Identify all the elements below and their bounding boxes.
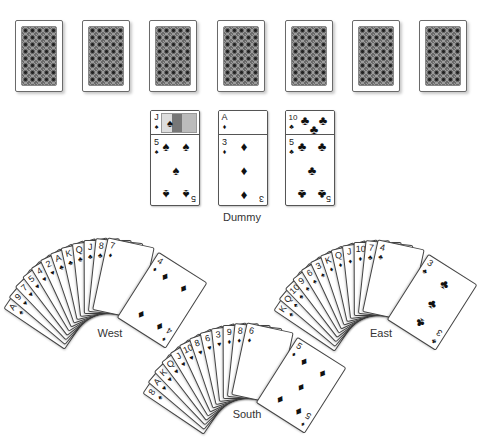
- diamond-pip: ♦: [238, 140, 251, 153]
- west-label: West: [98, 327, 123, 339]
- spade-icon: ♠: [152, 123, 161, 130]
- spade-pip: ♠: [180, 140, 193, 153]
- card-rank: 4: [377, 243, 388, 254]
- diamond-icon: ♦: [220, 123, 229, 130]
- card-rank: 3: [257, 194, 266, 203]
- card-rank: 3: [220, 138, 229, 147]
- card-back-pattern: [223, 26, 259, 86]
- spade-pip: ♠: [160, 140, 173, 153]
- card-rank: A: [220, 113, 229, 122]
- club-pip: ♣: [308, 123, 321, 136]
- dummy-card-top[interactable]: 10 ♣ ♣ ♣ ♣: [286, 111, 334, 135]
- card-rank: 10: [287, 113, 299, 122]
- card-back[interactable]: [82, 20, 130, 92]
- diamond-icon: ♦: [106, 251, 116, 260]
- card-back[interactable]: [149, 20, 197, 92]
- card-rank: 5: [324, 194, 333, 203]
- club-pip: ♣: [411, 314, 429, 332]
- diamond-icon: ♦: [220, 148, 229, 155]
- diamond-pip: ♦: [238, 164, 251, 177]
- club-pip: ♣: [436, 275, 454, 293]
- card-back-pattern: [291, 26, 327, 86]
- diamond-pip: ♦: [292, 378, 310, 396]
- card-back-pattern: [425, 26, 461, 86]
- card-back-pattern: [21, 26, 57, 86]
- card-back-pattern: [88, 26, 124, 86]
- card-rank: 7: [107, 241, 118, 252]
- club-pip: ♣: [423, 295, 441, 313]
- dummy-card-top[interactable]: J ♠ ♠: [151, 111, 199, 135]
- club-pip: ♣: [316, 140, 329, 153]
- dummy-label: Dummy: [223, 211, 261, 223]
- card-back[interactable]: [352, 20, 400, 92]
- dummy-column-clubs[interactable]: 10 ♣ ♣ ♣ ♣ 5 ♣ ♣ ♣ ♣ ♣ ♣ 5: [285, 110, 335, 206]
- card-rank: J: [152, 113, 161, 122]
- diamond-pip: ♦: [314, 364, 332, 382]
- card-back[interactable]: [15, 20, 63, 92]
- card-back-pattern: [155, 26, 191, 86]
- east-label: East: [370, 327, 392, 339]
- club-pip: ♣: [306, 164, 319, 177]
- club-pip: ♣: [296, 188, 309, 201]
- card-back-pattern: [358, 26, 394, 86]
- diamond-icon: ♦: [245, 336, 255, 345]
- diamond-pip: ♦: [271, 391, 289, 409]
- club-pip: ♣: [296, 140, 309, 153]
- diamond-pip: ♦: [238, 188, 251, 201]
- dummy-column-diamonds[interactable]: A ♦ 3 ♦ ♦ ♦ ♦ 3: [218, 110, 268, 206]
- spade-pip: ♠: [160, 188, 173, 201]
- club-icon: ♣: [376, 253, 386, 262]
- spade-icon: ♠: [164, 117, 177, 130]
- card-back[interactable]: [217, 20, 265, 92]
- dummy-card-top[interactable]: A ♦: [219, 111, 267, 135]
- card-rank: 6: [246, 326, 257, 337]
- spade-pip: ♠: [170, 164, 183, 177]
- club-icon: ♣: [287, 123, 296, 130]
- diamond-pip: ♦: [175, 279, 193, 297]
- diamond-pip: ♦: [132, 306, 150, 324]
- dummy-column-spades[interactable]: J ♠ ♠ 5 ♠ ♠ ♠ ♠ ♠ ♠ 5: [150, 110, 200, 206]
- card-rank: 3: [433, 326, 445, 338]
- south-label: South: [233, 408, 262, 420]
- card-back[interactable]: [285, 20, 333, 92]
- card-back[interactable]: [419, 20, 467, 92]
- card-rank: 5: [189, 194, 198, 203]
